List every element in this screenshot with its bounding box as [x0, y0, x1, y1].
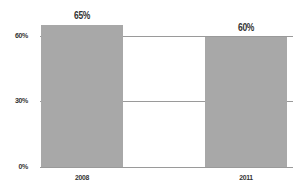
- x-label-2011: 2011: [211, 173, 281, 182]
- value-label-2008: 65%: [47, 10, 117, 21]
- y-tick-60: 60%: [0, 32, 28, 39]
- y-tick-0: 0%: [0, 163, 28, 170]
- bar-2011: [205, 37, 287, 167]
- value-label-2011: 60%: [211, 22, 281, 33]
- y-tick-30: 30%: [0, 97, 28, 104]
- bar-2008: [41, 25, 123, 167]
- x-label-2008: 2008: [47, 173, 117, 182]
- gridline-0: [40, 167, 293, 168]
